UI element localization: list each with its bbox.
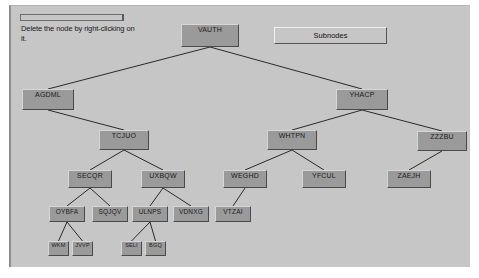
tree-node-zaejh[interactable]: ZAEJH <box>387 170 431 188</box>
tree-edge <box>292 150 324 170</box>
tree-edge <box>409 151 442 170</box>
tree-edge <box>233 188 245 206</box>
tree-node-vauth[interactable]: VAUTH <box>181 24 239 47</box>
tree-node-yhacp[interactable]: YHACP <box>336 89 388 110</box>
tree-node-weghd[interactable]: WEGHD <box>223 170 267 188</box>
tree-node-jvvp[interactable]: JVVP <box>72 241 93 256</box>
tree-node-vdnxg[interactable]: VDNXG <box>173 206 209 222</box>
tree-edge <box>362 110 442 131</box>
tree-edge <box>59 222 68 241</box>
tree-node-uxbqw[interactable]: UXBQW <box>141 170 185 188</box>
hint-progress-bar <box>20 14 124 21</box>
tree-node-yfcul[interactable]: YFCUL <box>302 170 346 188</box>
tree-node-ulnps[interactable]: ULNPS <box>132 206 168 222</box>
tree-edge-layer <box>11 6 472 268</box>
subnodes-button[interactable]: Subnodes <box>274 27 387 44</box>
tree-edge <box>67 188 90 206</box>
tree-edge <box>48 110 124 130</box>
tree-node-agdml[interactable]: AGDML <box>22 89 74 110</box>
tree-edge <box>90 188 110 206</box>
tree-edge <box>132 222 151 241</box>
tree-node-bgq[interactable]: BGQ <box>145 241 166 256</box>
tree-node-seli[interactable]: SELI <box>121 241 142 256</box>
tree-node-wkm[interactable]: WKM <box>48 241 69 256</box>
tree-node-zzzbu[interactable]: ZZZBU <box>417 131 467 151</box>
tree-edge <box>48 47 210 89</box>
tree-node-vtzai[interactable]: VTZAI <box>215 206 251 222</box>
tree-edge <box>90 150 124 170</box>
tree-edge <box>245 150 292 170</box>
tree-node-whtpn[interactable]: WHTPN <box>267 130 317 150</box>
tree-edge <box>124 150 163 170</box>
tree-node-oybfa[interactable]: OYBFA <box>49 206 85 222</box>
tree-edge <box>67 222 83 241</box>
tree-edge <box>163 188 191 206</box>
tree-node-tcjuo[interactable]: TCJUO <box>99 130 149 150</box>
tree-edge <box>292 110 362 130</box>
tree-edge <box>150 188 163 206</box>
tree-edge <box>210 47 362 89</box>
tree-node-sqjqv[interactable]: SQJQV <box>92 206 128 222</box>
tree-node-secqr[interactable]: SECQR <box>68 170 112 188</box>
app-window: Delete the node by right-clicking on it.… <box>9 5 470 267</box>
tree-canvas[interactable]: Delete the node by right-clicking on it.… <box>11 6 472 268</box>
tree-edge <box>150 222 156 241</box>
hint-text: Delete the node by right-clicking on it. <box>21 24 141 43</box>
